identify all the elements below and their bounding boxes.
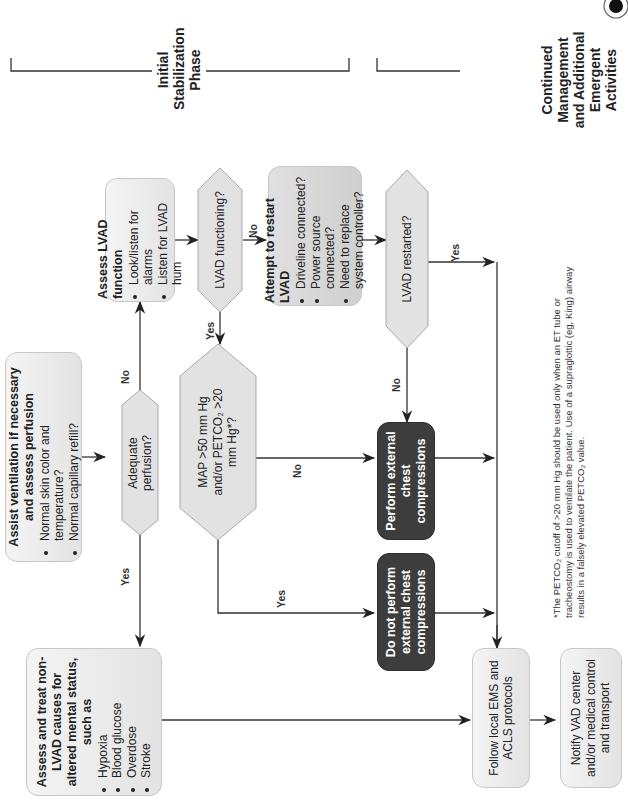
node-assess-lvad: Assess LVAD function Look/listen for ala… (105, 178, 175, 302)
edge-label-map-yes: Yes (274, 586, 288, 608)
decision-lvad-restarted-label: LVAD restarted? (386, 192, 428, 326)
edge-label-functioning-no: No (246, 220, 260, 238)
edge-label-restarted-no: No (389, 374, 403, 392)
edge-label-adequate-yes: Yes (118, 564, 132, 586)
node-attempt-restart: Attempt to restart LVAD Driveline connec… (268, 166, 362, 306)
edge-label-functioning-yes: Yes (203, 318, 217, 340)
node-non-lvad-causes: Assess and treat non-LVAD causes for alt… (26, 648, 162, 796)
node-title: Assist ventilation if necessary and asse… (6, 359, 36, 555)
edge-label-map-no: No (290, 460, 304, 478)
decision-map-petco2-label: MAP >50 mm Hg and/or PETCO₂ >20 mm Hg*? (182, 378, 254, 506)
decision-lvad-functioning-label: LVAD functioning? (198, 190, 242, 290)
footnote: *The PETCO₂ cutoff of >20 mm Hg should b… (548, 250, 590, 620)
phase-label-initial: Initial Stabilization Phase (152, 30, 206, 110)
node-notify-vad: Notify VAD center and/or medical control… (560, 648, 622, 788)
edge-label-restarted-yes: Yes (448, 240, 462, 262)
node-follow-ems: Follow local EMS and ACLS protocols (472, 648, 530, 788)
edge-label-adequate-no: No (118, 364, 132, 384)
phase-label-continued: Continued Management and Additional Emer… (532, 28, 626, 132)
decision-adequate-perfusion-label: Adequate perfusion? (122, 405, 158, 520)
node-perform-compressions: Perform external chest compressions (377, 422, 435, 540)
node-assist-ventilation: Assist ventilation if necessary and asse… (5, 352, 82, 562)
node-no-compressions: Do not perform external chest compressio… (377, 553, 435, 671)
